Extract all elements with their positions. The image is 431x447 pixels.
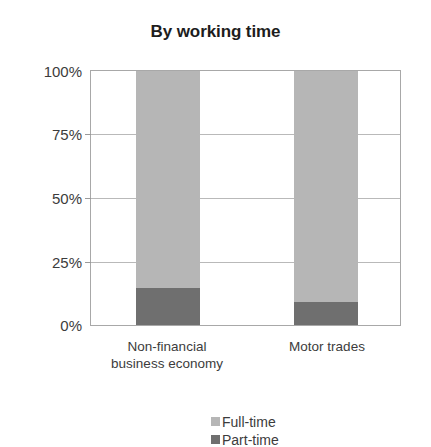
x-axis-label-motor-trades: Motor trades — [253, 338, 401, 355]
x-axis-label-line-1: Motor trades — [289, 339, 365, 354]
legend-item-part-time[interactable]: Part-time — [211, 431, 279, 447]
y-axis-label-0: 0% — [12, 317, 82, 334]
bar-segment-part-time[interactable] — [294, 302, 358, 325]
tick-mark-25 — [85, 262, 91, 263]
bar-segment-full-time[interactable] — [294, 71, 358, 302]
y-axis-label-25: 25% — [12, 254, 82, 271]
chart-legend: Full-time Part-time — [211, 413, 279, 447]
tick-mark-75 — [85, 134, 91, 135]
chart-title: By working time — [0, 22, 431, 42]
plot-area — [90, 70, 401, 326]
legend-swatch-icon-full-time — [211, 417, 220, 426]
legend-item-full-time[interactable]: Full-time — [211, 413, 279, 430]
x-axis-label-line-2: business economy — [93, 355, 241, 372]
y-axis-label-100: 100% — [12, 63, 82, 80]
x-axis-label-non-financial-business-economy: Non-financial business economy — [93, 338, 241, 372]
chart-container: By working time 100% 75% 50% 25% 0% Non-… — [0, 0, 431, 447]
x-axis-label-line-1: Non-financial — [128, 339, 207, 354]
legend-label-part-time: Part-time — [222, 432, 279, 447]
y-axis-label-75: 75% — [12, 126, 82, 143]
legend-swatch-icon-part-time — [211, 435, 220, 444]
bar-segment-part-time[interactable] — [136, 288, 200, 325]
y-axis-label-50: 50% — [12, 190, 82, 207]
tick-mark-50 — [85, 198, 91, 199]
legend-label-full-time: Full-time — [222, 414, 276, 430]
bar-segment-full-time[interactable] — [136, 71, 200, 288]
